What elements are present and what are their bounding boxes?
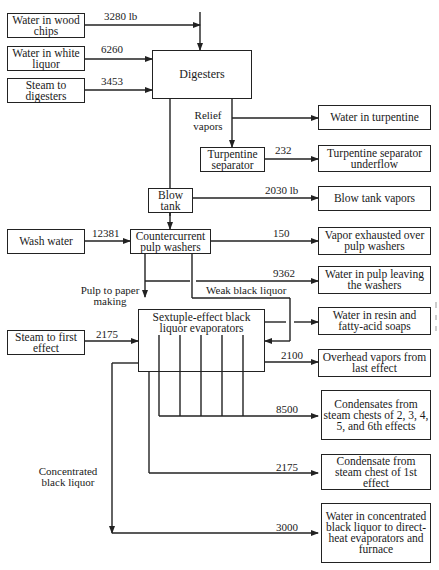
node-pulp-washers: Countercurrent pulp washers xyxy=(130,229,211,254)
node-water-turpentine: Water in turpentine xyxy=(318,105,431,130)
node-turpentine-underflow: Turpentine separator underflow xyxy=(318,145,431,172)
flow-conc-liquor: 3000 xyxy=(276,522,298,533)
flow-wood-chips: 3280 lb xyxy=(104,11,137,22)
node-turpentine-separator: Turpentine separator xyxy=(200,147,265,172)
flow-steam-digesters: 3453 xyxy=(101,76,123,87)
flow-condensate-1: 2175 xyxy=(276,462,298,473)
flow-vapor-exhausted: 150 xyxy=(273,228,290,239)
node-blow-tank-vapors: Blow tank vapors xyxy=(318,186,431,211)
label-pulp-to-paper: Pulp to paper making xyxy=(78,285,142,307)
node-water-resin: Water in resin and fatty-acid soaps xyxy=(318,307,431,335)
node-digesters: Digesters xyxy=(152,50,252,99)
node-steam-digesters: Steam to digesters xyxy=(7,78,85,103)
node-water-white-liquor: Water in white liquor xyxy=(7,46,85,71)
node-evaporators: Sextuple-effect black liquor evaporators xyxy=(138,309,265,335)
flow-overhead-vapors: 2100 xyxy=(281,350,303,361)
flow-blow-tank-vapors: 2030 lb xyxy=(265,185,298,196)
node-overhead-vapors: Overhead vapors from last effect xyxy=(318,349,431,377)
node-water-wood-chips: Water in wood chips xyxy=(7,13,85,38)
node-water-conc-liquor: Water in concentrated black liquor to di… xyxy=(321,503,431,563)
flow-steam-first-effect: 2175 xyxy=(96,329,118,340)
label-weak-black-liquor: Weak black liquor xyxy=(206,285,286,296)
node-condensates-2-6: Condensates from steam chests of 2, 3, 4… xyxy=(321,390,431,440)
node-steam-first-effect: Steam to first effect xyxy=(7,330,85,355)
node-wash-water: Wash water xyxy=(7,229,85,254)
flow-wash-water: 12381 xyxy=(92,228,120,239)
node-vapor-exhausted: Vapor exhausted over pulp washers xyxy=(318,227,431,255)
evaporator-effects xyxy=(138,334,265,372)
label-concentrated-black-liquor: Concentrated black liquor xyxy=(32,466,104,488)
flow-condensates-2-6: 8500 xyxy=(276,404,298,415)
node-blow-tank: Blow tank xyxy=(148,188,193,213)
flow-pulp-leaving: 9362 xyxy=(273,268,295,279)
flow-turpentine-underflow: 232 xyxy=(275,145,292,156)
label-relief-vapors: Relief vapors xyxy=(188,110,228,132)
flow-white-liquor: 6260 xyxy=(101,44,123,55)
node-water-pulp-leaving: Water in pulp leaving the washers xyxy=(318,266,431,294)
node-condensate-1: Condensate from steam chest of 1st effec… xyxy=(321,454,431,490)
